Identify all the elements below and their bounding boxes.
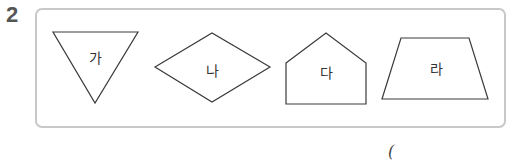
shape-label-na: 나 [206, 60, 219, 80]
shape-label-da: 다 [320, 62, 333, 82]
shape-triangle-ga [53, 32, 138, 103]
shapes-canvas [0, 0, 529, 161]
shape-label-ra: 라 [430, 58, 443, 78]
answer-parenthesis: ( [388, 142, 394, 161]
shape-label-ga: 가 [89, 47, 102, 67]
